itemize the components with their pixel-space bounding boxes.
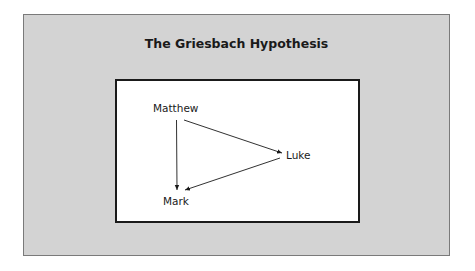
diagram-box bbox=[115, 79, 360, 223]
node-matthew: Matthew bbox=[153, 103, 198, 114]
diagram-title: The Griesbach Hypothesis bbox=[23, 36, 450, 51]
node-mark: Mark bbox=[163, 196, 189, 207]
node-luke: Luke bbox=[286, 150, 311, 161]
